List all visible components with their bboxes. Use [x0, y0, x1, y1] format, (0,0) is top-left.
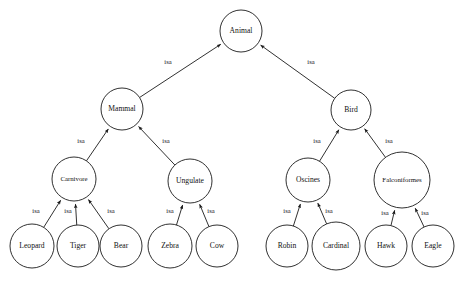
- node-label-oscines: Oscines: [296, 175, 320, 184]
- node-tiger[interactable]: Tiger: [57, 225, 99, 267]
- edge-label-cardinal-to-oscines: isa: [325, 207, 332, 214]
- edges-layer: [44, 44, 424, 229]
- node-cardinal[interactable]: Cardinal: [312, 222, 360, 270]
- node-robin[interactable]: Robin: [266, 225, 308, 267]
- node-mammal[interactable]: Mammal: [101, 88, 143, 130]
- edge-label-zebra-to-ungulate: isa: [166, 207, 173, 214]
- node-label-carnivore: Carnivore: [60, 175, 87, 182]
- node-falconiformes[interactable]: Falconiformes: [374, 152, 430, 208]
- node-cow[interactable]: Cow: [196, 225, 238, 267]
- isa-edge-hawk-to-falconiformes: [391, 210, 395, 225]
- edge-label-tiger-to-carnivore: isa: [64, 207, 71, 214]
- edge-label-leopard-to-carnivore: isa: [32, 207, 39, 214]
- isa-edge-bird-to-animal: [261, 45, 335, 98]
- node-label-leopard: Leopard: [19, 241, 45, 250]
- isa-edge-tiger-to-carnivore: [76, 204, 77, 225]
- isa-edge-robin-to-oscines: [293, 204, 300, 226]
- node-label-eagle: Eagle: [424, 241, 442, 250]
- edge-label-bird-to-animal: isa: [307, 58, 314, 65]
- node-carnivore[interactable]: Carnivore: [52, 157, 96, 201]
- edge-label-oscines-to-bird: isa: [313, 137, 320, 144]
- node-eagle[interactable]: Eagle: [412, 225, 454, 267]
- node-hawk[interactable]: Hawk: [365, 225, 407, 267]
- edge-label-robin-to-oscines: isa: [283, 207, 290, 214]
- isa-edge-falconiformes-to-bird: [365, 129, 386, 158]
- edge-label-cow-to-ungulate: isa: [207, 207, 214, 214]
- node-label-cardinal: Cardinal: [323, 241, 349, 250]
- isa-edge-carnivore-to-mammal: [86, 129, 108, 161]
- figure-root: isaisaisaisaisaisaisaisaisaisaisaisaisai…: [0, 0, 456, 281]
- node-oscines[interactable]: Oscines: [286, 158, 330, 202]
- isa-edge-oscines-to-bird: [320, 130, 339, 161]
- node-ungulate[interactable]: Ungulate: [168, 159, 212, 203]
- node-label-mammal: Mammal: [108, 104, 135, 113]
- edge-label-hawk-to-falconiformes: isa: [381, 209, 388, 216]
- node-label-bear: Bear: [114, 241, 129, 250]
- node-label-robin: Robin: [278, 241, 297, 250]
- node-label-zebra: Zebra: [161, 241, 179, 250]
- node-animal[interactable]: Animal: [220, 10, 262, 52]
- node-label-cow: Cow: [210, 241, 225, 250]
- isa-edge-zebra-to-ungulate: [176, 205, 182, 225]
- edge-label-ungulate-to-mammal: isa: [162, 137, 169, 144]
- node-leopard[interactable]: Leopard: [10, 224, 54, 268]
- node-label-falconiformes: Falconiformes: [382, 176, 422, 183]
- isa-edge-bear-to-carnivore: [88, 200, 108, 229]
- isa-edge-leopard-to-carnivore: [44, 200, 61, 227]
- edge-label-eagle-to-falconiformes: isa: [421, 209, 428, 216]
- node-zebra[interactable]: Zebra: [148, 224, 192, 268]
- edge-label-falconiformes-to-bird: isa: [385, 137, 392, 144]
- edge-label-bear-to-carnivore: isa: [107, 207, 114, 214]
- edge-label-mammal-to-animal: isa: [164, 58, 171, 65]
- semantic-network-diagram: isaisaisaisaisaisaisaisaisaisaisaisaisai…: [0, 0, 456, 281]
- edge-label-carnivore-to-mammal: isa: [77, 137, 84, 144]
- node-label-animal: Animal: [230, 26, 253, 35]
- node-label-ungulate: Ungulate: [176, 176, 204, 185]
- isa-edge-mammal-to-animal: [140, 44, 221, 97]
- node-label-hawk: Hawk: [377, 241, 395, 250]
- node-label-tiger: Tiger: [70, 241, 87, 250]
- node-bird[interactable]: Bird: [331, 90, 371, 130]
- isa-edge-ungulate-to-mammal: [139, 127, 175, 165]
- node-bear[interactable]: Bear: [100, 225, 142, 267]
- node-label-bird: Bird: [344, 105, 358, 114]
